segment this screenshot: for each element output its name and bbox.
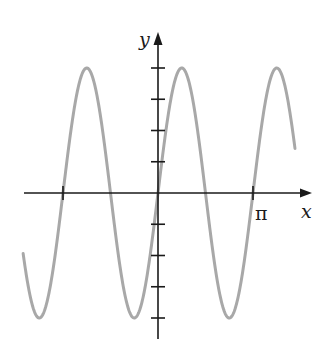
y-axis-label: y [138,28,150,50]
pi-tick-label: π [255,202,268,224]
x-axis-arrow-icon [300,189,312,198]
sine-graph: y x π [0,0,335,344]
x-axis-label: x [301,200,312,222]
axes [24,32,312,339]
y-axis-arrow-icon [154,32,163,45]
